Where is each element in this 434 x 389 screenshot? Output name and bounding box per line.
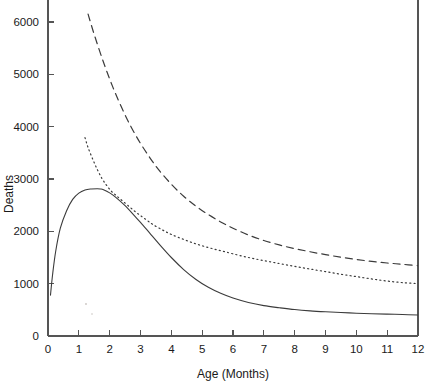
y-axis-title: Deaths xyxy=(2,175,16,213)
x-tick-label: 6 xyxy=(230,343,236,355)
scan-speck xyxy=(85,303,87,305)
scan-speck xyxy=(91,313,93,315)
x-tick-label: 4 xyxy=(168,343,175,355)
y-tick-label: 3000 xyxy=(13,173,39,185)
series-solid-curve xyxy=(50,189,418,315)
chart-figure: 0100020003000400050006000 01234567891011… xyxy=(0,0,434,389)
x-tick-label: 8 xyxy=(291,343,297,355)
x-tick-label: 11 xyxy=(381,343,393,355)
x-axis-title: Age (Months) xyxy=(197,367,269,381)
y-tick-label: 5000 xyxy=(13,68,39,80)
series-dashed-curve xyxy=(88,14,418,265)
y-tick-label: 6000 xyxy=(13,16,39,28)
x-tick-label: 3 xyxy=(137,343,143,355)
y-tick-label: 0 xyxy=(33,330,39,342)
y-tick-label: 4000 xyxy=(13,121,39,133)
y-tick-label: 2000 xyxy=(13,225,39,237)
x-tick-label: 0 xyxy=(45,343,51,355)
x-tick-label: 9 xyxy=(322,343,328,355)
series-layer xyxy=(50,14,418,315)
x-axis-ticks: 0123456789101112 xyxy=(45,330,425,355)
deaths-vs-age-line-chart: 0100020003000400050006000 01234567891011… xyxy=(0,0,434,389)
series-dotted-curve xyxy=(85,138,418,284)
x-tick-label: 12 xyxy=(412,343,425,355)
x-tick-label: 1 xyxy=(76,343,82,355)
y-tick-label: 1000 xyxy=(13,278,39,290)
x-tick-label: 10 xyxy=(350,343,363,355)
x-tick-label: 7 xyxy=(261,343,267,355)
x-tick-label: 5 xyxy=(199,343,205,355)
x-tick-label: 2 xyxy=(106,343,112,355)
